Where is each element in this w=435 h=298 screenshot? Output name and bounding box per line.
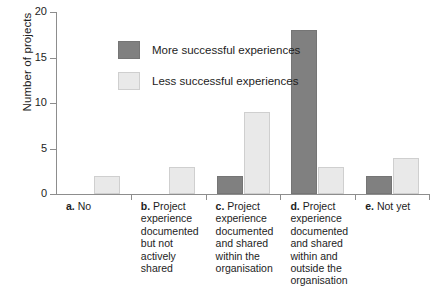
x-axis-label-line: but not (141, 237, 204, 249)
y-tick-label: 20 (35, 5, 47, 17)
x-axis-label: e. Not yet (365, 200, 428, 212)
x-axis-label-line: b. Project (141, 200, 204, 212)
bar-less-successful (169, 167, 195, 194)
x-axis-label-line: within the (216, 250, 279, 262)
y-tick-label: 10 (35, 96, 47, 108)
x-axis-label-line: documented (216, 225, 279, 237)
bar-more-successful (366, 176, 392, 194)
y-axis-line (56, 12, 57, 195)
legend-item: More successful experiences (118, 39, 300, 61)
x-axis-label: d. Projectexperiencedocumentedand shared… (290, 200, 353, 287)
x-axis-label-line: documented (141, 225, 204, 237)
x-axis-label: a. No (66, 200, 129, 212)
legend-swatch (118, 41, 140, 59)
y-axis-title: Number of projects (21, 0, 33, 137)
y-tick-mark (50, 149, 56, 150)
x-axis-label-line: and shared (216, 237, 279, 249)
bar-less-successful (318, 167, 344, 194)
x-axis-label-letter: d. (290, 200, 302, 212)
x-axis-label-letter: e. (365, 200, 377, 212)
chart-legend: More successful experiencesLess successf… (118, 39, 300, 101)
x-axis-category-labels: a. Nob. Projectexperiencedocumentedbut n… (56, 200, 430, 292)
y-tick-mark (50, 12, 56, 13)
x-axis-line (56, 194, 430, 195)
x-axis-label-line: experience (290, 212, 353, 224)
x-axis-label-line: a. No (66, 200, 129, 212)
x-axis-label-line: experience (216, 212, 279, 224)
x-axis-label-line: documented (290, 225, 353, 237)
legend-label: More successful experiences (152, 44, 300, 56)
y-tick-label: 5 (41, 142, 47, 154)
x-axis-label-letter: c. (216, 200, 228, 212)
bar-chart: Number of projects 05101520 More success… (0, 0, 435, 298)
x-axis-label-line: d. Project (290, 200, 353, 212)
x-axis-label-letter: b. (141, 200, 153, 212)
x-axis-label-line: e. Not yet (365, 200, 428, 212)
legend-swatch (118, 72, 140, 90)
x-axis-label-line: actively shared (141, 250, 204, 275)
x-axis-label: c. Projectexperiencedocumentedand shared… (216, 200, 279, 274)
plot-area: 05101520 More successful experiencesLess… (56, 12, 430, 195)
x-axis-label-line: and shared (290, 237, 353, 249)
x-axis-label-letter: a. (66, 200, 78, 212)
y-tick-mark (50, 194, 56, 195)
legend-label: Less successful experiences (152, 75, 298, 87)
x-axis-label-line: experience (141, 212, 204, 224)
x-axis-label-line: outside the (290, 262, 353, 274)
bar-more-successful (217, 176, 243, 194)
y-tick-label: 15 (35, 51, 47, 63)
y-tick-label: 0 (41, 187, 47, 199)
bar-less-successful (393, 158, 419, 194)
x-axis-label-line: organisation (216, 262, 279, 274)
x-axis-label: b. Projectexperiencedocumentedbut notact… (141, 200, 204, 274)
y-tick-mark (50, 58, 56, 59)
bar-less-successful (244, 112, 270, 194)
x-axis-label-line: within and (290, 250, 353, 262)
x-axis-label-line: organisation (290, 274, 353, 286)
legend-item: Less successful experiences (118, 70, 300, 92)
y-tick-mark (50, 103, 56, 104)
x-axis-label-line: c. Project (216, 200, 279, 212)
bar-less-successful (94, 176, 120, 194)
